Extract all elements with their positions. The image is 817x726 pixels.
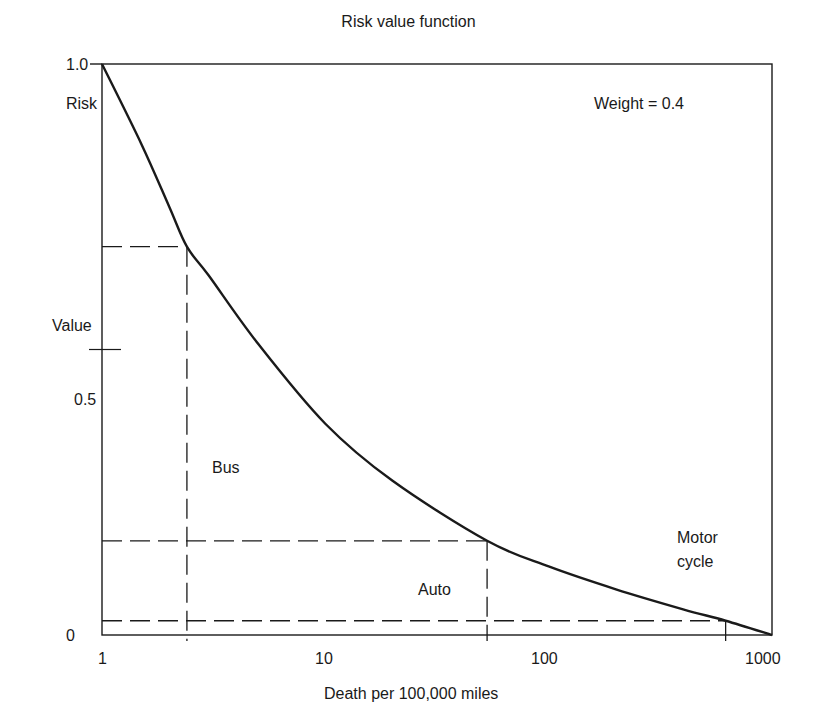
plot-area	[0, 0, 817, 726]
y-tick-label-0: 0	[66, 628, 75, 644]
motorcycle-label-line2: cycle	[677, 554, 713, 570]
y-tick-label-1: 1.0	[66, 57, 88, 73]
plot-frame	[102, 64, 772, 635]
auto-label: Auto	[418, 582, 451, 598]
motorcycle-label-line1: Motor	[677, 530, 718, 546]
x-tick-label-1: 1	[98, 651, 107, 667]
x-tick-label-10: 10	[315, 651, 333, 667]
x-tick-label-1000: 1000	[745, 651, 781, 667]
bus-label: Bus	[212, 460, 240, 476]
y-axis-label-value: Value	[52, 318, 92, 334]
risk-value-curve	[102, 64, 772, 635]
y-axis-label-risk: Risk	[66, 96, 97, 112]
x-axis-label: Death per 100,000 miles	[324, 686, 498, 702]
y-tick-label-05: 0.5	[74, 392, 96, 408]
x-tick-label-100: 100	[531, 651, 558, 667]
weight-annotation: Weight = 0.4	[594, 96, 684, 112]
